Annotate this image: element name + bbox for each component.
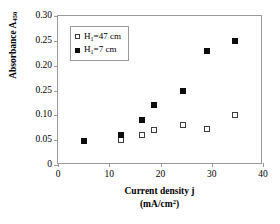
data-point (204, 126, 210, 132)
x-axis-title-line1: Current density j (124, 186, 194, 196)
y-axis-tick (54, 16, 58, 17)
y-axis-tick (54, 140, 58, 141)
legend-label-h1-7: H1=7 cm (84, 43, 116, 56)
x-axis-tick (212, 163, 213, 167)
data-point (180, 122, 186, 128)
y-axis-tick (54, 41, 58, 42)
y-axis-tick-label: 0.05 (35, 135, 52, 145)
y-axis-title: Absorbance A450 (8, 0, 19, 120)
x-axis-tick (263, 163, 264, 167)
data-point (139, 117, 145, 123)
x-axis-tick-label: 0 (56, 170, 61, 180)
data-point (151, 102, 157, 108)
y-axis-title-subscript: 450 (11, 12, 18, 22)
x-axis-tick (109, 163, 110, 167)
x-axis-tick (161, 163, 162, 167)
data-point (81, 138, 87, 144)
data-point (180, 88, 186, 94)
scatter-chart-figure: Absorbance A450 00.050.100.250.200.250.3… (0, 0, 280, 224)
data-point (232, 38, 238, 44)
x-axis-tick-label: 30 (207, 170, 217, 180)
y-axis-tick (54, 91, 58, 92)
y-axis-tick-label: 0.30 (35, 11, 52, 21)
x-axis-title: Current density j (mA/cm2) (57, 186, 262, 211)
legend-label-h1-47: H1=47 cm (84, 30, 121, 43)
y-axis-tick (54, 115, 58, 116)
x-axis-tick-label: 40 (258, 170, 268, 180)
data-point (232, 112, 238, 118)
x-axis-tick-label: 10 (105, 170, 115, 180)
x-axis-title-line2: (mA/cm2) (57, 198, 262, 211)
x-axis-tick-label: 20 (156, 170, 166, 180)
y-axis-tick-label: 0.20 (35, 61, 52, 71)
data-point (118, 132, 124, 138)
y-axis-tick-label: 0.10 (35, 111, 52, 121)
x-axis-tick (58, 163, 59, 167)
legend-marker-filled-square-icon (75, 48, 80, 53)
plot-area: 00.050.100.250.200.250.30 010203040 H1=4… (57, 15, 262, 164)
chart-legend: H1=47 cm H1=7 cm (70, 26, 129, 61)
y-axis-tick-label: 0.25 (35, 36, 52, 46)
y-axis-tick-label: 0 (47, 160, 52, 170)
data-point (204, 48, 210, 54)
legend-marker-open-square-icon (75, 34, 80, 39)
y-axis-title-text: Absorbance A (8, 22, 18, 79)
y-axis-tick-label: 0.25 (35, 86, 52, 96)
data-point (139, 132, 145, 138)
data-point (151, 127, 157, 133)
legend-item-h1-7: H1=7 cm (75, 43, 121, 56)
legend-item-h1-47: H1=47 cm (75, 30, 121, 43)
y-axis-tick (54, 66, 58, 67)
